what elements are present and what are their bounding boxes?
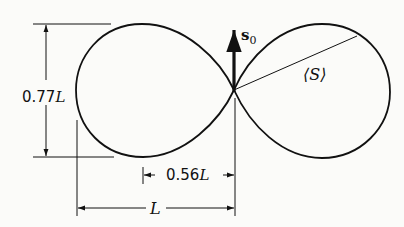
radiation-pattern-diagram: 0.77L 0.56L L s0 ⟨S⟩ — [0, 0, 404, 227]
mean-poynting-label: ⟨S⟩ — [303, 65, 326, 84]
height-label: 0.77L — [22, 88, 65, 106]
offset-label: 0.56L — [166, 166, 209, 184]
s0-label: s0 — [241, 26, 256, 47]
left-lobe — [76, 24, 234, 157]
right-lobe — [234, 24, 390, 158]
length-label: L — [149, 199, 161, 218]
